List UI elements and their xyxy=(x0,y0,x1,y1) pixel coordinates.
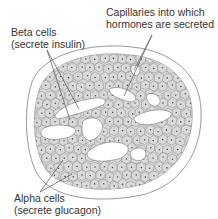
cell-nucleus xyxy=(41,149,43,151)
cell-nucleus xyxy=(141,167,143,169)
cell-nucleus xyxy=(54,175,56,177)
cell-nucleus xyxy=(190,176,192,178)
cell-nucleus xyxy=(105,77,107,79)
cell-nucleus xyxy=(81,86,83,88)
cell-nucleus xyxy=(98,66,100,68)
cell-nucleus xyxy=(68,77,70,79)
cell-nucleus xyxy=(149,167,151,169)
cell xyxy=(27,53,36,64)
cell xyxy=(181,53,191,63)
cell-nucleus xyxy=(94,166,96,168)
cell-nucleus xyxy=(126,158,128,160)
cell-nucleus xyxy=(50,148,52,150)
cell-nucleus xyxy=(131,147,133,149)
cell-nucleus xyxy=(145,104,147,106)
cell-nucleus xyxy=(121,75,123,77)
islet-diagram: Capillaries into which hormones are secr… xyxy=(0,0,218,219)
cell-nucleus xyxy=(55,158,57,160)
cell xyxy=(186,46,195,56)
cell-nucleus xyxy=(72,157,74,159)
cell-nucleus xyxy=(175,184,177,186)
cell-nucleus xyxy=(45,85,47,87)
cell-nucleus xyxy=(41,58,43,60)
cell-nucleus xyxy=(122,58,124,60)
cell-nucleus xyxy=(68,147,70,149)
capillary xyxy=(130,148,146,161)
cell-nucleus xyxy=(63,140,65,142)
cell-nucleus xyxy=(60,95,62,97)
cell xyxy=(181,178,189,188)
cell-nucleus xyxy=(81,157,83,159)
cell-nucleus xyxy=(64,176,66,178)
cell-nucleus xyxy=(140,131,142,133)
cell-nucleus xyxy=(127,121,129,123)
cell-nucleus xyxy=(37,102,39,104)
cell-nucleus xyxy=(105,111,107,113)
cell-nucleus xyxy=(87,75,89,77)
cell-nucleus xyxy=(58,167,60,169)
cell-nucleus xyxy=(81,66,83,68)
cell xyxy=(189,55,198,64)
cell-nucleus xyxy=(150,147,152,149)
beta-cells-label-line1: Beta cells xyxy=(11,26,85,38)
cell-nucleus xyxy=(77,76,79,78)
cell-nucleus xyxy=(49,76,51,78)
cell-nucleus xyxy=(140,95,142,97)
cell xyxy=(22,62,31,73)
cell-nucleus xyxy=(186,113,188,115)
cell-nucleus xyxy=(28,176,30,178)
cell-nucleus xyxy=(49,113,51,115)
alpha-cells-label-line1: Alpha cells xyxy=(14,192,101,204)
cell-nucleus xyxy=(122,130,124,132)
cell-nucleus xyxy=(109,140,111,142)
cell-nucleus xyxy=(55,86,57,88)
cell-nucleus xyxy=(94,77,96,79)
cell-nucleus xyxy=(166,129,168,131)
cell-nucleus xyxy=(145,84,147,86)
cell-nucleus xyxy=(109,85,111,87)
cell-nucleus xyxy=(181,175,183,177)
cell xyxy=(159,44,168,54)
cell-nucleus xyxy=(62,66,64,68)
cell-nucleus xyxy=(60,149,62,151)
cell-nucleus xyxy=(180,49,182,51)
cell-nucleus xyxy=(85,149,87,151)
cell-nucleus xyxy=(28,84,30,86)
cell-nucleus xyxy=(113,76,115,78)
cell-nucleus xyxy=(168,95,170,97)
cell-nucleus xyxy=(176,112,178,114)
cell-nucleus xyxy=(62,103,64,105)
cell-nucleus xyxy=(113,58,115,60)
cell-nucleus xyxy=(108,68,110,70)
cell xyxy=(172,180,181,191)
cell-nucleus xyxy=(89,67,91,69)
cell-nucleus xyxy=(185,93,187,95)
cell-nucleus xyxy=(62,50,64,52)
cell-nucleus xyxy=(158,77,160,79)
cell-nucleus xyxy=(36,66,38,68)
cell-nucleus xyxy=(176,130,178,132)
cell-nucleus xyxy=(145,176,147,178)
cell-nucleus xyxy=(158,165,160,167)
cell-nucleus xyxy=(85,58,87,60)
cell-nucleus xyxy=(166,149,168,151)
cell-nucleus xyxy=(105,57,107,59)
cell-nucleus xyxy=(162,85,164,87)
cell-nucleus xyxy=(172,102,174,104)
cell-nucleus xyxy=(177,77,179,79)
cell-nucleus xyxy=(122,184,124,186)
cell-nucleus xyxy=(131,167,133,169)
cell-nucleus xyxy=(117,176,119,178)
cell-nucleus xyxy=(82,140,84,142)
cell xyxy=(168,44,177,54)
cell-nucleus xyxy=(50,95,52,97)
beta-cells-label-line2: (secrete insulin) xyxy=(11,38,85,50)
cell-nucleus xyxy=(153,175,155,177)
cell-nucleus xyxy=(121,166,123,168)
cell-nucleus xyxy=(27,156,29,158)
cell-nucleus xyxy=(87,112,89,114)
cell-nucleus xyxy=(136,86,138,88)
cell-nucleus xyxy=(153,140,155,142)
cell-nucleus xyxy=(194,59,196,61)
cell-nucleus xyxy=(109,121,111,123)
